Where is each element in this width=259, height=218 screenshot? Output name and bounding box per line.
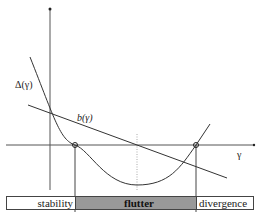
region-divergence: divergence xyxy=(196,196,254,210)
region-stability: stability xyxy=(6,196,76,210)
b-line-label: b(γ) xyxy=(77,113,93,123)
b-line xyxy=(28,105,227,178)
y-axis-arrow-icon xyxy=(49,8,52,11)
delta-curve xyxy=(30,57,210,185)
x-axis-label: γ xyxy=(237,150,241,160)
region-stability-label: stability xyxy=(38,197,73,209)
diagram-canvas xyxy=(0,0,259,218)
region-flutter-label: flutter xyxy=(124,197,154,209)
x-axis-arrow-icon xyxy=(253,144,255,146)
region-flutter: flutter xyxy=(75,196,197,210)
region-divergence-label: divergence xyxy=(199,197,247,209)
delta-curve-label: Δ(γ) xyxy=(15,80,33,90)
